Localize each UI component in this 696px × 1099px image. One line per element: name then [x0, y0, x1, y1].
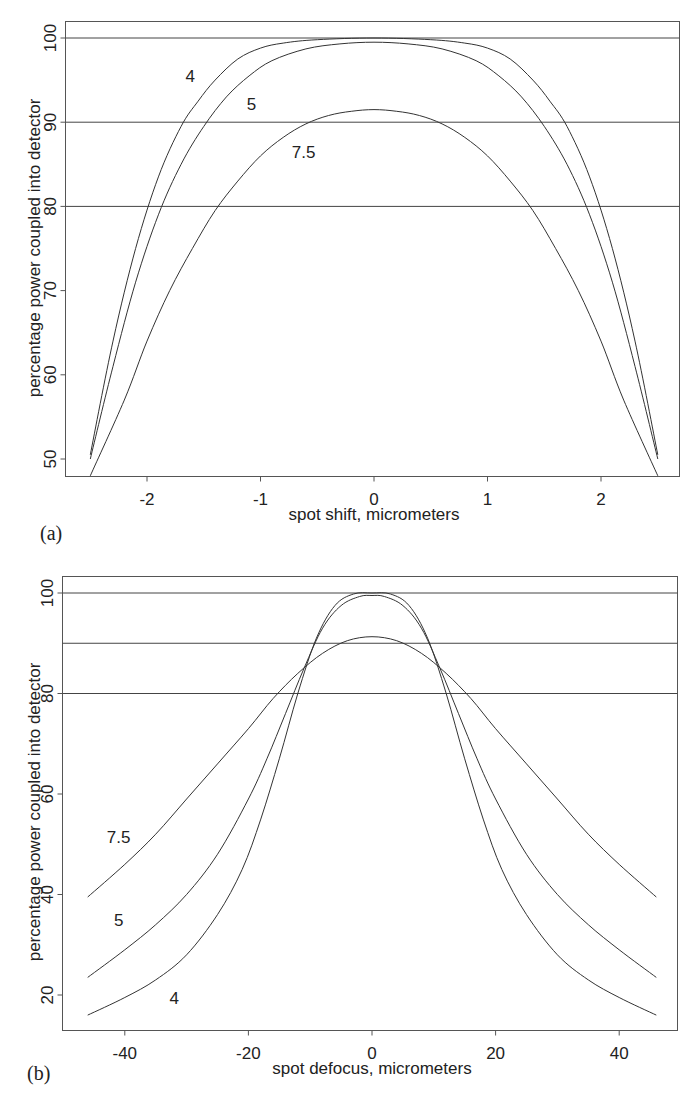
y-tick-label: 20 — [38, 986, 57, 1005]
panel-a-x-axis-label: spot shift, micrometers — [289, 505, 460, 524]
curve-label-5: 5 — [247, 95, 256, 114]
y-tick-label: 100 — [38, 579, 57, 607]
y-tick-label: 50 — [41, 450, 60, 469]
x-tick-label: -2 — [139, 490, 154, 509]
panel-a-curves — [90, 38, 658, 476]
panel-a-curve-labels: 457.5 — [185, 67, 315, 162]
x-tick-label: 20 — [486, 1044, 505, 1063]
curve-7-5 — [90, 110, 658, 476]
curve-5 — [90, 42, 658, 459]
curve-label-7-5: 7.5 — [107, 828, 131, 847]
panel-b-y-axis-label: percentage power coupled into detector — [25, 662, 44, 961]
curve-5 — [88, 595, 657, 977]
panel-b-reference-lines — [63, 593, 678, 694]
curve-label-7-5: 7.5 — [292, 143, 316, 162]
x-tick-label: -20 — [236, 1044, 261, 1063]
curve-4 — [90, 38, 658, 455]
curve-7-5 — [88, 637, 657, 897]
x-tick-label: -40 — [113, 1044, 138, 1063]
curve-label-4: 4 — [185, 67, 194, 86]
panel-b-curves — [88, 593, 657, 1015]
panel-b-chart: 20406080100 -40-2002040 7.554 percentage… — [25, 577, 678, 1086]
figure: 5060708090100 -2-1012 457.5 percentage p… — [0, 0, 696, 1099]
panel-b-label: (b) — [27, 1062, 50, 1085]
curve-label-4: 4 — [170, 989, 179, 1008]
x-tick-label: -1 — [253, 490, 268, 509]
x-tick-label: 2 — [596, 490, 605, 509]
panel-b-plot-frame — [63, 577, 678, 1031]
panel-a-label: (a) — [40, 522, 62, 545]
curve-label-5: 5 — [114, 911, 123, 930]
x-tick-label: 40 — [610, 1044, 629, 1063]
panel-a-chart: 5060708090100 -2-1012 457.5 percentage p… — [25, 22, 680, 546]
curve-4 — [88, 593, 657, 1015]
y-tick-label: 100 — [41, 24, 60, 52]
panel-a-y-axis-label: percentage power coupled into detector — [25, 98, 44, 397]
panel-b-x-axis-label: spot defocus, micrometers — [272, 1059, 471, 1078]
panel-a-plot-frame — [66, 22, 680, 477]
panel-b-curve-labels: 7.554 — [107, 828, 179, 1008]
panel-a-y-axis: 5060708090100 — [41, 24, 66, 469]
panel-a-reference-lines — [66, 38, 680, 206]
x-tick-label: 1 — [483, 490, 492, 509]
